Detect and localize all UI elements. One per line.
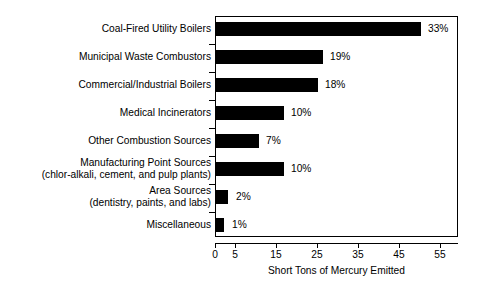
x-axis-tick <box>440 243 441 248</box>
bar-value-label: 1% <box>232 218 247 232</box>
bar-value-label: 18% <box>325 78 345 92</box>
bar-value-label: 2% <box>236 190 251 204</box>
x-tick-text: 25 <box>311 249 322 260</box>
category-axis-labels: Coal-Fired Utility Boilers Municipal Was… <box>0 0 211 237</box>
bar <box>216 134 259 148</box>
category-label: Miscellaneous <box>0 219 211 231</box>
bar-value-label: 10% <box>291 106 311 120</box>
bar <box>216 50 323 64</box>
bar-value-text: 7% <box>266 135 281 146</box>
x-axis-tick-label: 15 <box>270 249 281 261</box>
x-tick-text: 45 <box>393 249 404 260</box>
x-axis-line <box>215 243 458 244</box>
category-label: Coal-Fired Utility Boilers <box>0 23 211 35</box>
category-label-text: Coal-Fired Utility Boilers <box>102 23 211 34</box>
bar <box>216 190 228 204</box>
bar-value-label: 10% <box>291 162 311 176</box>
bar-value-label: 33% <box>428 22 448 36</box>
x-tick-text: 0 <box>212 249 218 260</box>
x-axis-tick-label: 55 <box>434 249 445 261</box>
x-axis-tick-label: 45 <box>393 249 404 261</box>
category-label-text: Other Combustion Sources <box>88 135 211 146</box>
x-axis-tick <box>399 243 400 248</box>
category-label-text: Municipal Waste Combustors <box>79 51 211 62</box>
bar-value-text: 10% <box>291 163 311 174</box>
x-axis-tick-label: 25 <box>311 249 322 261</box>
category-label: Medical Incinerators <box>0 107 211 119</box>
bar-value-text: 2% <box>236 191 251 202</box>
category-label: Commercial/Industrial Boilers <box>0 79 211 91</box>
mercury-emissions-bar-chart: Coal-Fired Utility Boilers Municipal Was… <box>0 0 478 296</box>
x-tick-text: 15 <box>270 249 281 260</box>
bar-value-text: 19% <box>330 51 350 62</box>
bar <box>216 106 284 120</box>
x-tick-text: 55 <box>434 249 445 260</box>
x-axis-tick-label: 35 <box>352 249 363 261</box>
x-axis-tick-label: 5 <box>232 249 238 261</box>
category-label-text: Medical Incinerators <box>120 107 211 118</box>
x-axis-tick-label: 0 <box>212 249 218 261</box>
bar-value-text: 33% <box>428 23 448 34</box>
bar-value-label: 19% <box>330 50 350 64</box>
bar-value-text: 1% <box>232 219 247 230</box>
x-axis-tick <box>317 243 318 248</box>
x-axis-tick <box>276 243 277 248</box>
bar <box>216 78 318 92</box>
x-tick-text: 35 <box>352 249 363 260</box>
category-label-text: Commercial/Industrial Boilers <box>79 79 211 90</box>
category-label-text: Miscellaneous <box>146 219 211 230</box>
category-label-text: Manufacturing Point Sources <box>80 157 211 168</box>
category-sublabel-text: (chlor-alkali, cement, and pulp plants) <box>0 169 211 181</box>
category-label: Area Sources (dentistry, paints, and lab… <box>0 185 211 208</box>
x-axis-title: Short Tons of Mercury Emitted <box>215 265 458 276</box>
category-sublabel-text: (dentistry, paints, and labs) <box>0 197 211 209</box>
category-label: Municipal Waste Combustors <box>0 51 211 63</box>
bar <box>216 218 224 232</box>
x-axis-tick <box>235 243 236 248</box>
x-tick-text: 5 <box>232 249 238 260</box>
category-label-text: Area Sources <box>149 185 211 196</box>
category-label: Other Combustion Sources <box>0 135 211 147</box>
bar-value-text: 18% <box>325 79 345 90</box>
category-label: Manufacturing Point Sources (chlor-alkal… <box>0 157 211 180</box>
x-axis-tick <box>215 243 216 248</box>
x-axis-tick <box>358 243 359 248</box>
bar <box>216 22 421 36</box>
bar-value-label: 7% <box>266 134 281 148</box>
bar-value-text: 10% <box>291 107 311 118</box>
bar <box>216 162 284 176</box>
